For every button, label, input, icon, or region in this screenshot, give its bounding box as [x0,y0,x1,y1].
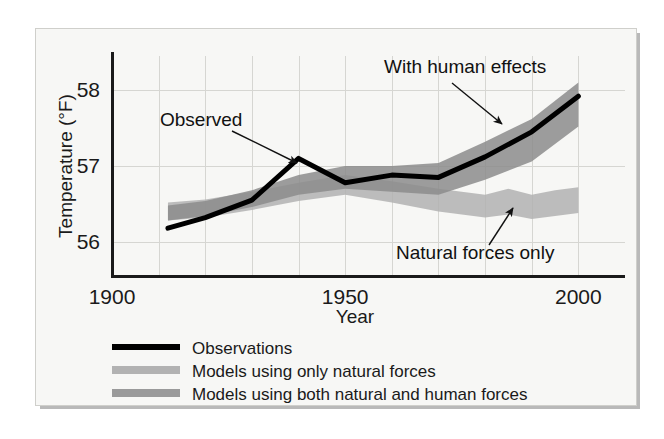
annotation-label: Natural forces only [396,242,555,263]
legend-swatch-band [112,366,180,374]
temperature-chart: 565758 190019502000 Temperature (°F) Yea… [0,0,664,439]
x-axis-tick-label: 2000 [555,285,602,308]
x-axis-tick-label: 1900 [89,285,136,308]
y-axis-tick-labels: 565758 [77,78,100,253]
x-axis-tick-label: 1950 [322,285,369,308]
legend-label: Observations [192,339,292,358]
figure-root: 565758 190019502000 Temperature (°F) Yea… [0,0,664,439]
legend-swatch-band [112,389,180,397]
annotation-label: Observed [160,109,242,130]
legend-label: Models using only natural forces [192,362,436,381]
annotation-label: With human effects [384,56,546,77]
y-axis-tick-label: 56 [77,230,100,253]
y-axis-tick-label: 57 [77,154,100,177]
x-axis-tick-labels: 190019502000 [89,285,602,308]
y-axis-tick-label: 58 [77,78,100,101]
x-axis-title: Year [336,306,375,327]
y-axis-title: Temperature (°F) [55,94,76,238]
legend-label: Models using both natural and human forc… [192,385,527,404]
chart-legend: ObservationsModels using only natural fo… [112,339,527,404]
